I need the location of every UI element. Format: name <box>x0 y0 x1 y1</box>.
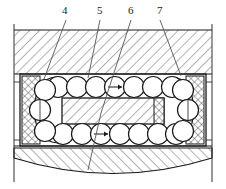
callout-label-6: 6 <box>128 5 134 16</box>
upper-housing-region <box>14 30 212 74</box>
callout-label-5: 5 <box>97 5 103 16</box>
callout-label-7: 7 <box>157 5 163 16</box>
bearing-cross-section-drawing <box>0 0 226 189</box>
callout-label-4: 4 <box>62 5 68 16</box>
inner-race <box>62 98 164 124</box>
lower-housing-region <box>14 146 212 174</box>
lower-ball-row <box>53 124 187 145</box>
figure-canvas: 4 5 6 7 <box>0 0 226 189</box>
